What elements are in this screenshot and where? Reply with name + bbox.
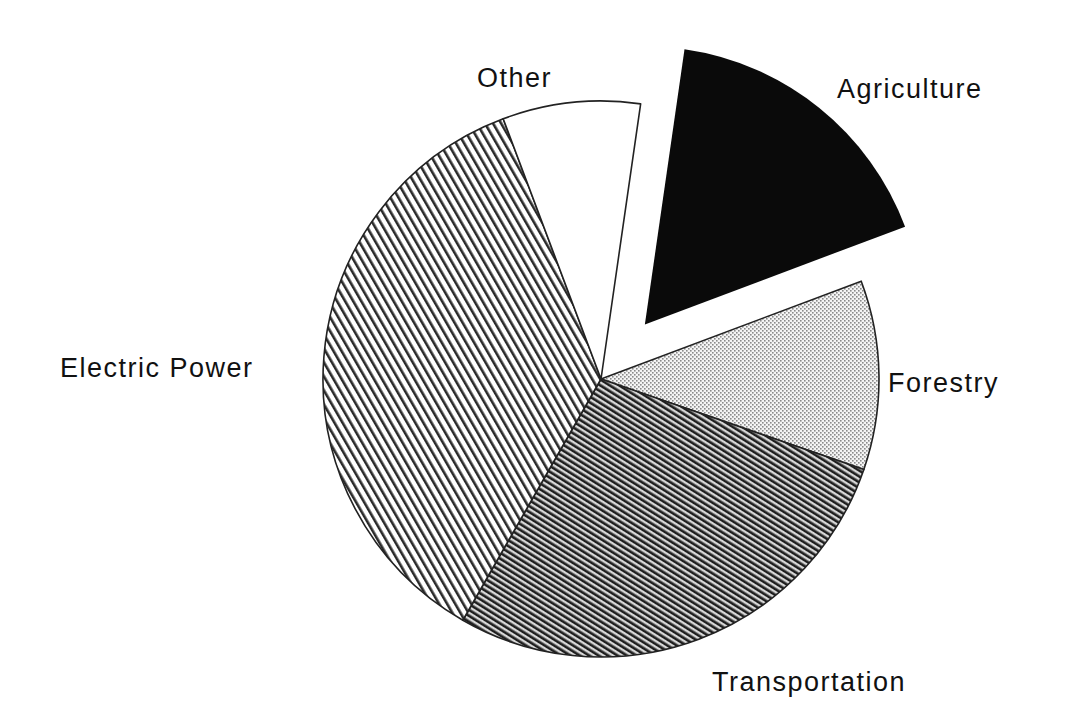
label-electric-power: Electric Power [60,353,254,383]
pie-chart: Other Agriculture Forestry Electric Powe… [0,0,1087,728]
label-forestry: Forestry [888,368,999,398]
label-agriculture: Agriculture [837,74,983,104]
label-transportation: Transportation [712,667,906,697]
label-other: Other [477,63,552,93]
